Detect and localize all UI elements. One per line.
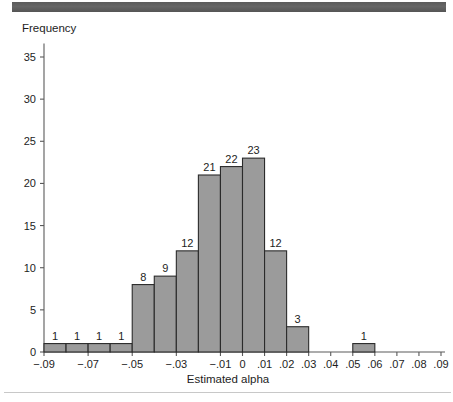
x-axis-title: Estimated alpha [187, 373, 270, 385]
bar-value-label: 1 [74, 330, 80, 342]
bars-group [44, 158, 375, 352]
figure-container: 05101520253035 −.09−.07−.05−.03−.010.01.… [0, 0, 453, 402]
histogram-chart: 05101520253035 −.09−.07−.05−.03−.010.01.… [0, 0, 453, 402]
bar-value-label: 22 [225, 153, 237, 165]
y-tick-label: 30 [24, 93, 36, 105]
y-tick-label: 25 [24, 135, 36, 147]
x-tick-label: .05 [345, 358, 360, 370]
histogram-bar [265, 251, 287, 352]
bar-value-label: 1 [96, 330, 102, 342]
bar-value-label: 8 [140, 271, 146, 283]
x-tick-label: .04 [323, 358, 338, 370]
histogram-bar [132, 285, 154, 352]
x-tick-label: .01 [257, 358, 272, 370]
histogram-bar [220, 167, 242, 352]
y-axis-title: Frequency [22, 22, 77, 34]
histogram-bar [198, 175, 220, 352]
histogram-bar [353, 344, 375, 352]
histogram-bar [44, 344, 66, 352]
bottom-rule-decoration [4, 392, 451, 393]
bar-value-label: 23 [247, 144, 259, 156]
histogram-bar [176, 251, 198, 352]
plot-area: 05101520253035 −.09−.07−.05−.03−.010.01.… [0, 0, 453, 402]
x-tick-label: .07 [389, 358, 404, 370]
y-tick-label: 20 [24, 177, 36, 189]
x-axis: −.09−.07−.05−.03−.010.01.02.03.04.05.06.… [33, 352, 449, 370]
y-tick-label: 15 [24, 220, 36, 232]
x-tick-label: −.03 [165, 358, 187, 370]
histogram-bar [154, 276, 176, 352]
histogram-bar [66, 344, 88, 352]
bar-value-label: 12 [269, 237, 281, 249]
histogram-bar [110, 344, 132, 352]
bar-value-label: 21 [203, 161, 215, 173]
bar-value-label: 3 [295, 313, 301, 325]
bar-value-label: 12 [181, 237, 193, 249]
y-tick-label: 35 [24, 51, 36, 63]
x-tick-label: .09 [433, 358, 448, 370]
histogram-bar [243, 158, 265, 352]
x-tick-label: .03 [301, 358, 316, 370]
bar-value-label: 1 [52, 330, 58, 342]
y-tick-label: 0 [30, 346, 36, 358]
x-tick-label: .06 [367, 358, 382, 370]
y-tick-label: 5 [30, 304, 36, 316]
histogram-bar [88, 344, 110, 352]
x-tick-label: −.07 [77, 358, 99, 370]
x-tick-label: −.05 [121, 358, 143, 370]
bar-value-label: 1 [361, 330, 367, 342]
x-tick-label: −.09 [33, 358, 55, 370]
y-axis: 05101520253035 [24, 44, 44, 358]
bar-value-label: 1 [118, 330, 124, 342]
x-tick-label: .08 [411, 358, 426, 370]
bar-value-label: 9 [162, 262, 168, 274]
histogram-bar [287, 327, 309, 352]
y-tick-label: 10 [24, 262, 36, 274]
x-tick-label: 0 [239, 358, 245, 370]
x-tick-label: −.01 [210, 358, 232, 370]
x-tick-label: .02 [279, 358, 294, 370]
